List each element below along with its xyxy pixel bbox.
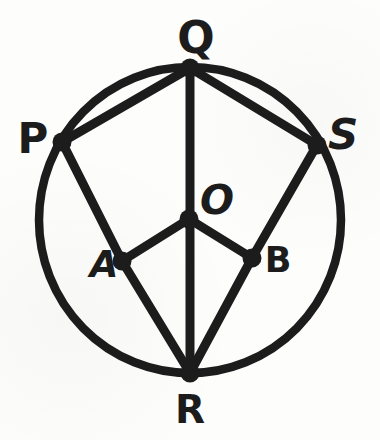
point-dot-O xyxy=(180,210,199,229)
segment-OB xyxy=(189,219,252,258)
point-dot-S xyxy=(308,136,327,155)
point-label-O: O xyxy=(200,177,234,223)
point-label-A: A xyxy=(87,243,119,286)
segment-OA xyxy=(122,219,189,261)
geometry-figure: QPSOABR xyxy=(0,0,380,440)
point-label-R: R xyxy=(175,387,205,432)
segment-BR xyxy=(190,258,252,373)
point-dot-R xyxy=(181,364,200,383)
point-label-S: S xyxy=(328,110,358,159)
point-dot-P xyxy=(53,133,72,152)
point-label-P: P xyxy=(18,114,49,163)
point-label-Q: Q xyxy=(177,12,214,63)
segment-AR xyxy=(122,261,190,373)
circle-diagram-canvas: QPSOABR xyxy=(0,0,380,440)
point-label-B: B xyxy=(265,240,292,280)
point-dot-B xyxy=(243,249,262,268)
